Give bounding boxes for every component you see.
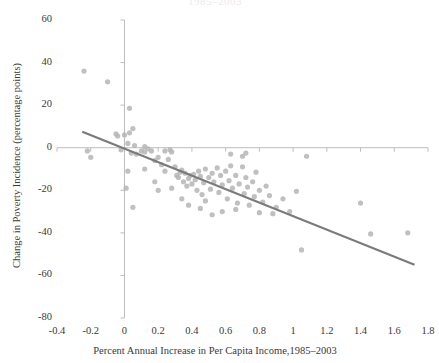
data-point [162,148,167,153]
data-point [225,196,230,201]
data-point [235,200,240,205]
data-point [203,198,208,203]
data-point [127,106,132,111]
data-point [267,193,272,198]
data-point [169,149,174,154]
y-tick-label: 0 [16,141,52,152]
data-point [233,207,238,212]
data-point [215,165,220,170]
data-point [294,189,299,194]
data-point [216,190,221,195]
x-tick-label: 1.6 [377,325,411,336]
data-point [127,130,132,135]
data-point [405,230,410,235]
data-point [208,187,213,192]
data-point [132,143,137,148]
data-points-group [81,68,410,252]
data-point [130,205,135,210]
data-point [368,231,373,236]
data-point [124,186,129,191]
data-point [88,155,93,160]
data-point [257,188,262,193]
data-point [358,200,363,205]
data-point [264,183,269,188]
data-point [156,188,161,193]
data-point [253,170,258,175]
data-point [220,209,225,214]
x-tick-label: 0.2 [141,325,175,336]
data-point [85,148,90,153]
x-tick-label: 1.4 [344,325,378,336]
data-point [240,164,245,169]
data-point [304,154,309,159]
x-tick-label: 1.8 [411,325,439,336]
data-point [280,196,285,201]
x-tick-label: 1 [276,325,310,336]
data-point [169,186,174,191]
data-point [152,179,157,184]
data-point [223,169,228,174]
data-point [206,175,211,180]
data-point [166,157,171,162]
data-point [149,148,154,153]
data-point [142,166,147,171]
data-point [189,181,194,186]
data-point [198,206,203,211]
data-point [176,175,181,180]
data-point [196,169,201,174]
data-point [252,194,257,199]
data-point [179,196,184,201]
x-tick-label: 0.4 [175,325,209,336]
x-tick-label: -0.4 [40,325,74,336]
data-point [105,79,110,84]
data-point [181,179,186,184]
data-point [125,141,130,146]
y-tick-label: -20 [16,183,52,194]
data-point [184,183,189,188]
y-tick-label: -60 [16,268,52,279]
data-point [162,169,167,174]
data-point [186,203,191,208]
x-tick-label: -0.2 [74,325,108,336]
data-point [243,150,248,155]
data-point [130,126,135,131]
data-point [156,155,161,160]
trendline-group [82,132,414,265]
data-point [210,171,215,176]
trendline [82,132,414,265]
y-tick-label: 20 [16,98,52,109]
data-point [270,211,275,216]
data-point [243,175,248,180]
data-point [199,192,204,197]
y-tick-label: 60 [16,13,52,24]
data-point [115,133,120,138]
data-point [299,247,304,252]
data-point [226,178,231,183]
x-tick-label: 0.6 [209,325,243,336]
data-point [218,173,223,178]
data-point [122,132,127,137]
data-point [194,188,199,193]
data-point [125,169,130,174]
data-point [245,184,250,189]
data-point [228,163,233,168]
data-point [203,166,208,171]
data-point [230,186,235,191]
data-point [257,210,262,215]
data-point [237,181,242,186]
x-tick-label: 0.8 [242,325,276,336]
x-tick-label: 1.2 [310,325,344,336]
data-point [81,68,86,73]
y-tick-label: 40 [16,56,52,67]
data-point [228,152,233,157]
y-tick-label: -40 [16,226,52,237]
data-point [250,179,255,184]
data-point [210,212,215,217]
y-tick-label: -80 [16,311,52,322]
x-tick-label: 0 [107,325,141,336]
data-point [233,173,238,178]
data-point [247,203,252,208]
